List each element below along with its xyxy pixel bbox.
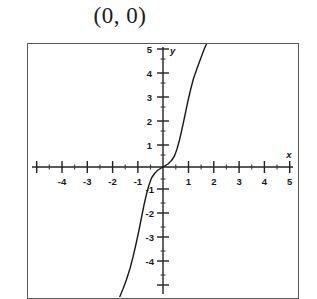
y-tick-label-neg3: -3	[146, 232, 154, 243]
x-tick-label-neg3: -3	[83, 176, 91, 187]
x-tick-label-1: 1	[186, 176, 192, 187]
y-tick-label-5: 5	[147, 44, 153, 55]
page-title: (0, 0)	[0, 1, 240, 31]
x-tick-label-4: 4	[262, 176, 268, 187]
y-tick-label-4: 4	[147, 68, 153, 79]
x-axis-label: x	[285, 149, 292, 160]
y-axis-label: y	[169, 45, 176, 56]
cubic-function-plot: -4 -3 -2 -1 1 2 3 4 5 5 4 3 2 1 -1 -2 -3…	[28, 44, 297, 297]
y-tick-label-2: 2	[147, 116, 152, 127]
y-tick-label-neg2: -2	[146, 208, 154, 219]
x-tick-label-neg1: -1	[134, 176, 143, 187]
y-tick-label-neg4: -4	[146, 256, 155, 267]
y-tick-label-3: 3	[147, 92, 152, 103]
x-tick-label-2: 2	[211, 176, 216, 187]
plot-frame: -4 -3 -2 -1 1 2 3 4 5 5 4 3 2 1 -1 -2 -3…	[27, 43, 299, 299]
x-tick-label-3: 3	[236, 176, 241, 187]
y-tick-label-1: 1	[147, 140, 153, 151]
x-tick-label-5: 5	[287, 176, 293, 187]
x-tick-label-neg4: -4	[58, 176, 67, 187]
x-tick-label-neg2: -2	[108, 176, 116, 187]
